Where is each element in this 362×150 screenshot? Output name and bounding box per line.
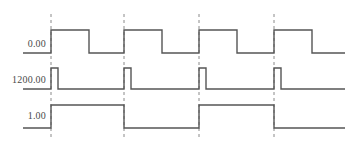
waveform-signal-1 [23,105,345,128]
timing-waveform-canvas [0,0,362,150]
signal-label-1200: 1200.00 [0,74,46,85]
signal-label-0: 0.00 [0,38,46,49]
waveform-signal-0 [23,30,345,53]
timing-diagram: 0.00 1200.00 1.00 [0,0,362,150]
waveform-signal-1200 [23,68,345,89]
signal-label-1: 1.00 [0,110,46,121]
